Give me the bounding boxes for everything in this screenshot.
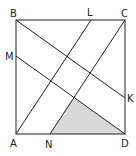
shaded-triangle (50, 98, 125, 135)
geometry-diagram: B L C M K A N D (0, 0, 136, 156)
segment-bk (16, 20, 125, 98)
label-k: K (127, 93, 134, 104)
label-l: L (87, 7, 93, 18)
label-c: C (121, 8, 128, 19)
label-m: M (5, 51, 14, 62)
label-n: N (45, 139, 52, 150)
label-d: D (121, 138, 129, 149)
label-b: B (10, 8, 17, 19)
label-a: A (10, 138, 17, 149)
